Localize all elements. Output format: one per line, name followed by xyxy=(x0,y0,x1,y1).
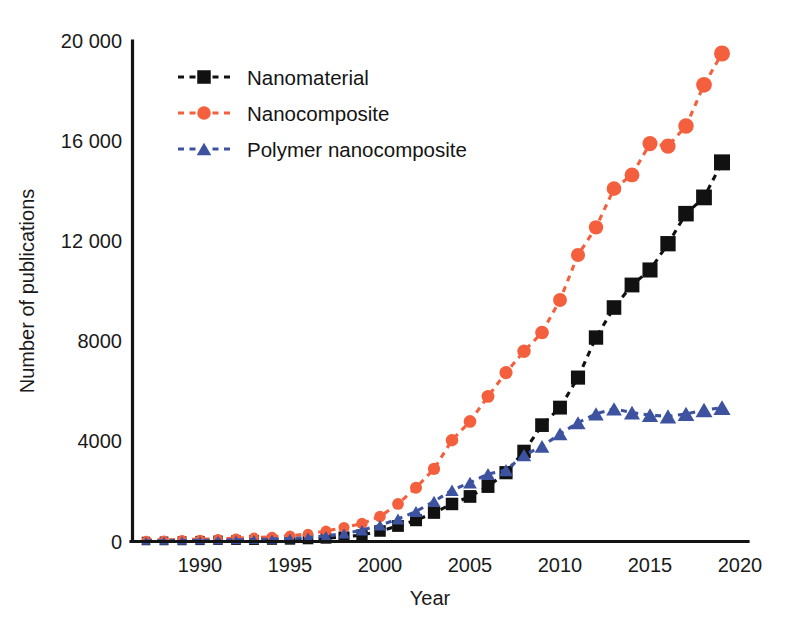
data-point xyxy=(445,484,458,495)
x-tick-label: 1990 xyxy=(178,554,223,576)
data-series-layer xyxy=(141,46,730,546)
x-axis-title: Year xyxy=(410,587,451,609)
data-point xyxy=(446,498,458,510)
data-point xyxy=(642,262,657,277)
data-point xyxy=(642,136,657,151)
data-point xyxy=(606,402,622,415)
data-point xyxy=(552,428,567,441)
data-point xyxy=(607,181,622,196)
legend-label: Nanomaterial xyxy=(247,66,369,89)
legend-marker-circle-icon xyxy=(197,106,211,120)
data-point xyxy=(625,278,640,293)
data-point xyxy=(553,293,567,307)
x-tick-label: 2010 xyxy=(538,554,583,576)
y-axis-tick-labels: 04000800012 00016 00020 000 xyxy=(61,30,122,553)
data-point xyxy=(553,401,567,415)
data-point xyxy=(464,415,477,428)
legend-item-nanocomposite[interactable]: Nanocomposite xyxy=(178,102,389,125)
data-point xyxy=(660,236,675,251)
legend-item-nanomaterial[interactable]: Nanomaterial xyxy=(178,66,369,89)
data-point xyxy=(660,409,677,423)
data-point xyxy=(714,46,730,62)
data-point xyxy=(499,366,512,379)
data-point xyxy=(464,490,477,503)
data-point xyxy=(482,480,495,493)
legend-label: Polymer nanocomposite xyxy=(247,138,467,161)
legend-marker-square-icon xyxy=(197,70,211,84)
x-tick-label: 2020 xyxy=(718,554,763,576)
y-tick-label: 4000 xyxy=(78,430,123,452)
y-tick-label: 20 000 xyxy=(61,30,122,52)
legend-item-polymer-nanocomposite[interactable]: Polymer nanocomposite xyxy=(178,138,467,161)
y-axis-title: Number of publications xyxy=(16,189,38,394)
x-tick-label: 2000 xyxy=(358,554,403,576)
data-point xyxy=(392,514,405,525)
data-point xyxy=(589,330,603,344)
data-point xyxy=(392,498,404,510)
data-point xyxy=(571,248,585,262)
data-point xyxy=(535,440,550,453)
data-point xyxy=(589,220,603,234)
data-point xyxy=(714,154,730,170)
publications-trend-chart: 04000800012 00016 00020 000 199019952000… xyxy=(0,0,786,630)
y-tick-label: 0 xyxy=(111,531,122,553)
data-point xyxy=(410,482,422,494)
data-point xyxy=(678,206,694,222)
data-point xyxy=(535,326,549,340)
series-nanocomposite xyxy=(142,46,730,545)
x-tick-label: 2005 xyxy=(448,554,493,576)
series-nanomaterial xyxy=(142,154,730,545)
data-point xyxy=(625,167,640,182)
x-tick-label: 2015 xyxy=(628,554,673,576)
data-point xyxy=(446,434,458,446)
data-point xyxy=(678,118,694,134)
data-point xyxy=(482,390,495,403)
x-tick-label: 1995 xyxy=(268,554,313,576)
y-tick-label: 8000 xyxy=(78,330,123,352)
y-tick-label: 12 000 xyxy=(61,230,122,252)
chart-legend: NanomaterialNanocompositePolymer nanocom… xyxy=(178,66,467,161)
data-point xyxy=(535,418,549,432)
data-point xyxy=(660,138,675,153)
data-point xyxy=(696,190,712,206)
data-point xyxy=(696,77,712,93)
data-point xyxy=(695,403,712,418)
data-point xyxy=(571,371,585,385)
y-tick-label: 16 000 xyxy=(61,130,122,152)
x-axis-tick-labels: 1990199520002005201020152020 xyxy=(178,554,763,576)
data-point xyxy=(428,463,440,475)
data-point xyxy=(517,345,530,358)
legend-marker-triangle-icon xyxy=(197,143,212,155)
series-line xyxy=(146,162,722,541)
data-point xyxy=(463,477,477,489)
data-point xyxy=(570,416,585,429)
data-point xyxy=(607,300,622,315)
data-point xyxy=(428,507,440,519)
legend-label: Nanocomposite xyxy=(247,102,389,125)
chart-plot-area: 04000800012 00016 00020 000 199019952000… xyxy=(0,0,786,630)
